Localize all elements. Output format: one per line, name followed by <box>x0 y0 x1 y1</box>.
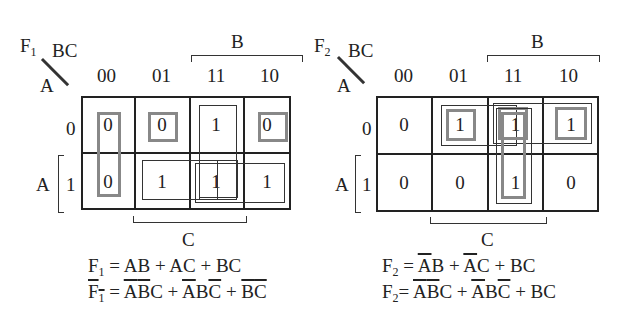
f1-brace-b-label: B <box>231 32 244 51</box>
f1-brace-b <box>191 55 303 62</box>
f1-label: F1 <box>20 36 37 58</box>
f2-col-var: BC <box>348 41 373 60</box>
f2-cell-0-00: 0 <box>376 96 432 154</box>
f1-loop-zero-col00 <box>97 112 121 197</box>
f1-row-label-1: 1 <box>66 175 76 194</box>
f2-brace-c-label: C <box>481 230 494 249</box>
f1-col-label-11: 11 <box>207 66 225 85</box>
f2-col-label-00: 00 <box>394 66 413 85</box>
f2-col-label-11: 11 <box>504 66 522 85</box>
f1-equation-2: F1 = ABC + ABC + BC <box>88 282 267 304</box>
f2-loop-inner-10 <box>555 107 587 140</box>
f2-row-label-0: 0 <box>362 119 372 138</box>
f2-loop-bc <box>496 108 532 204</box>
f2-brace-a <box>355 155 361 213</box>
f1-equation-1: F1 = AB + AC + BC <box>88 256 241 278</box>
f1-loop-inner <box>199 160 238 198</box>
f2-label: F2 <box>314 36 331 58</box>
f1-loop-zero-01 <box>148 112 178 142</box>
f1-col-var: BC <box>52 41 77 60</box>
f2-row-label-1: 1 <box>362 175 372 194</box>
f2-cell-1-10: 0 <box>543 154 599 212</box>
f1-brace-c-label: C <box>182 230 195 249</box>
f1-brace-c <box>133 216 247 223</box>
f2-col-label-01: 01 <box>449 66 468 85</box>
f1-brace-a-label: A <box>36 175 50 194</box>
f1-row-var: A <box>40 76 54 95</box>
f2-col-label-10: 10 <box>559 66 578 85</box>
f2-cell-1-01: 0 <box>432 154 488 212</box>
f1-row-label-0: 0 <box>66 119 76 138</box>
f2-brace-a-label: A <box>335 175 349 194</box>
f2-brace-b <box>487 55 600 62</box>
f2-brace-c <box>430 217 547 224</box>
f1-col-label-01: 01 <box>152 66 171 85</box>
f1-loop-zero-10 <box>258 112 288 142</box>
f2-row-var: A <box>337 76 351 95</box>
f2-equation-1: F2 = AB + AC + BC <box>382 256 535 278</box>
f2-cell-1-00: 0 <box>376 154 432 212</box>
f2-equation-2: F2= ABC + ABC + BC <box>382 282 556 304</box>
f1-col-label-00: 00 <box>97 66 116 85</box>
f2-brace-b-label: B <box>531 32 544 51</box>
f1-col-label-10: 10 <box>260 66 279 85</box>
f1-brace-a <box>58 155 64 213</box>
